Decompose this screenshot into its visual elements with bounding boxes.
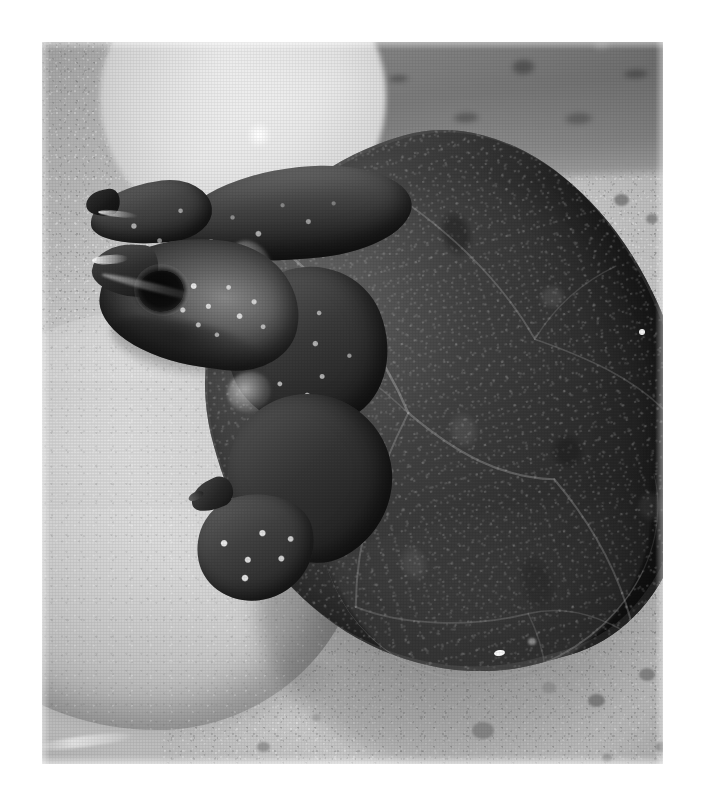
turtle-photograph	[42, 42, 663, 764]
sand-pebble	[588, 694, 605, 707]
sand-pebble	[472, 722, 494, 739]
sand-pebble	[528, 638, 536, 645]
sand-pebble	[614, 194, 629, 206]
sand-pebble	[656, 742, 663, 752]
sand-pebble	[639, 668, 655, 681]
sand-pebble	[257, 742, 270, 752]
page-root	[0, 0, 701, 805]
sand-pebbles	[42, 42, 663, 764]
sand-pebble	[602, 754, 612, 762]
sand-pebble	[542, 682, 556, 693]
sand-pebble	[646, 214, 658, 224]
sand-pebble	[312, 714, 321, 721]
